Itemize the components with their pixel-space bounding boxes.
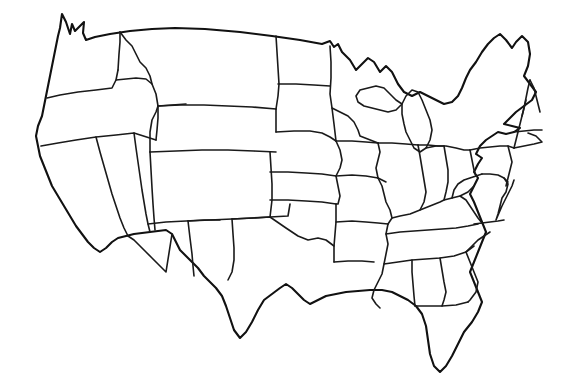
us-map-svg bbox=[0, 0, 563, 381]
us-outline-map-figure bbox=[0, 0, 563, 381]
